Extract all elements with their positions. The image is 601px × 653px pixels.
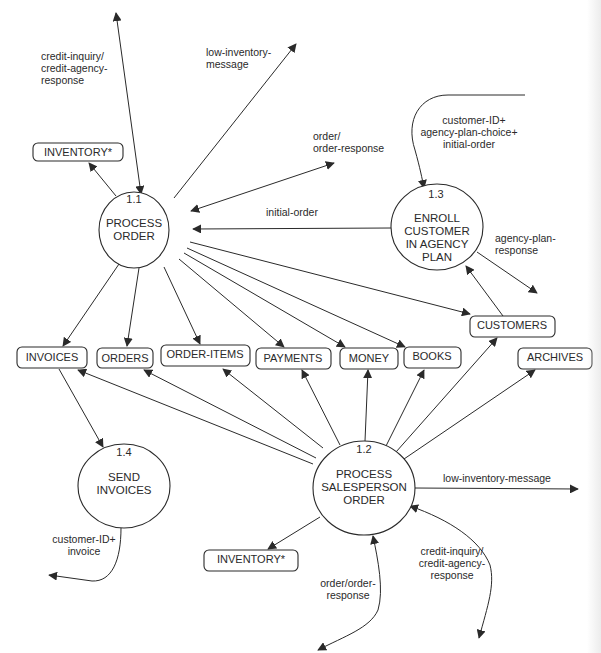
label-order-bottom: order/order- response (320, 577, 376, 601)
flow-agency-response (477, 252, 537, 293)
svg-text:INVOICES: INVOICES (26, 351, 79, 363)
process-number: 1.2 (356, 443, 371, 455)
svg-text:agency-plan-choice+: agency-plan-choice+ (420, 126, 517, 138)
svg-text:PAYMENTS: PAYMENTS (264, 352, 323, 364)
svg-text:ORDER: ORDER (113, 230, 155, 242)
svg-text:response: response (495, 244, 538, 256)
svg-text:credit-agency-: credit-agency- (419, 557, 486, 569)
svg-text:SEND: SEND (108, 471, 140, 483)
store-orders: ORDERS (97, 348, 153, 368)
svg-text:message: message (206, 58, 249, 70)
flow-to-order-items (164, 267, 200, 344)
svg-text:credit-inquiry/: credit-inquiry/ (41, 50, 104, 62)
svg-text:ARCHIVES: ARCHIVES (527, 351, 583, 363)
label-enroll-in: customer-ID+ agency-plan-choice+ initial… (420, 114, 517, 150)
svg-text:ORDERS: ORDERS (101, 352, 148, 364)
svg-text:low-inventory-: low-inventory- (206, 46, 272, 58)
flow-to-orders (127, 268, 139, 346)
flow-order-top (191, 163, 334, 211)
process-1-2: 1.2 PROCESS SALESPERSON ORDER (313, 441, 415, 535)
label-agency-response: agency-plan- response (495, 232, 556, 256)
store-inventory-bottom: INVENTORY* (204, 550, 298, 571)
svg-text:INVOICES: INVOICES (97, 484, 152, 496)
flow-sp-to-payments (302, 370, 340, 445)
svg-text:PROCESS: PROCESS (106, 217, 163, 229)
flow-customers-to-enroll (466, 266, 503, 316)
svg-text:PROCESS: PROCESS (336, 468, 393, 480)
label-order-top: order/ order-response (313, 130, 384, 154)
flow-sp-to-orders (144, 370, 316, 458)
flow-sp-to-books (386, 370, 424, 446)
label-credit-bottom: credit-inquiry/ credit-agency- response (419, 545, 486, 581)
svg-text:order/: order/ (313, 130, 341, 142)
process-number: 1.1 (126, 193, 141, 205)
svg-text:PLAN: PLAN (422, 251, 452, 263)
page-edge-shadow (587, 0, 601, 653)
flow-to-money (184, 253, 345, 347)
svg-text:customer-ID+: customer-ID+ (52, 533, 115, 545)
svg-text:MONEY: MONEY (349, 352, 390, 364)
store-customers: CUSTOMERS (470, 316, 555, 337)
label-low-inventory-top: low-inventory- message (206, 46, 272, 70)
svg-text:CUSTOMER: CUSTOMER (404, 225, 470, 237)
flow-initial-order (193, 228, 391, 229)
flow-credit-top (116, 13, 141, 194)
store-invoices: INVOICES (17, 347, 87, 368)
store-books: BOOKS (404, 347, 461, 368)
flow-invoices-to-send (59, 369, 103, 447)
flow-to-invoices (63, 264, 119, 346)
svg-text:invoice: invoice (68, 545, 101, 557)
svg-text:SALESPERSON: SALESPERSON (321, 481, 407, 493)
store-payments: PAYMENTS (256, 348, 331, 369)
label-initial-order: initial-order (266, 206, 318, 218)
process-number: 1.3 (428, 188, 443, 200)
label-invoice-out: customer-ID+ invoice (52, 533, 115, 557)
store-archives: ARCHIVES (518, 348, 592, 369)
process-1-1: 1.1 PROCESS ORDER (99, 192, 169, 268)
flow-to-books (187, 248, 405, 347)
svg-text:ORDER-ITEMS: ORDER-ITEMS (167, 348, 244, 360)
process-1-3: 1.3 ENROLL CUSTOMER IN AGENCY PLAN (391, 184, 483, 270)
flow-sp-to-money (365, 370, 368, 441)
svg-text:credit-agency-: credit-agency- (41, 62, 108, 74)
svg-text:INVENTORY*: INVENTORY* (217, 553, 286, 565)
svg-text:customer-ID+: customer-ID+ (442, 114, 505, 126)
store-inventory-top: INVENTORY* (33, 143, 123, 161)
process-number: 1.4 (116, 446, 131, 458)
flow-to-inventory-bottom (268, 517, 320, 549)
label-credit-top: credit-inquiry/ credit-agency- response (41, 50, 108, 86)
svg-text:ORDER: ORDER (343, 494, 385, 506)
label-low-inventory-bottom: low-inventory-message (443, 472, 551, 484)
svg-text:ENROLL: ENROLL (414, 212, 461, 224)
svg-text:INVENTORY*: INVENTORY* (44, 146, 113, 158)
svg-text:response: response (326, 589, 369, 601)
svg-text:credit-inquiry/: credit-inquiry/ (420, 545, 483, 557)
store-order-items: ORDER-ITEMS (161, 345, 250, 366)
svg-text:initial-order: initial-order (266, 206, 318, 218)
flow-low-inventory-bottom (414, 488, 578, 489)
svg-text:IN AGENCY: IN AGENCY (406, 238, 469, 250)
flow-sp-to-archives (404, 370, 535, 459)
store-money: MONEY (340, 348, 398, 369)
svg-text:response: response (41, 74, 84, 86)
svg-text:order/order-: order/order- (320, 577, 376, 589)
svg-text:initial-order: initial-order (443, 138, 495, 150)
svg-text:CUSTOMERS: CUSTOMERS (477, 319, 547, 331)
svg-text:agency-plan-: agency-plan- (495, 232, 556, 244)
svg-text:BOOKS: BOOKS (412, 350, 451, 362)
svg-text:order-response: order-response (313, 142, 384, 154)
svg-text:response: response (430, 569, 473, 581)
flow-to-inventory-top (89, 163, 116, 196)
data-flow-diagram: 1.1 PROCESS ORDER 1.2 PROCESS SALESPERSO… (0, 0, 601, 653)
svg-text:low-inventory-message: low-inventory-message (443, 472, 551, 484)
process-1-4: 1.4 SEND INVOICES (78, 444, 170, 528)
